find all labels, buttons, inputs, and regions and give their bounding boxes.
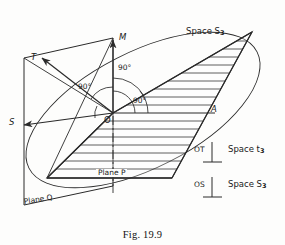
plane-p-label: Plane P [96, 169, 127, 177]
arc-angle-os [95, 106, 97, 118]
legend-bars [203, 142, 222, 197]
origin-label: O [104, 116, 111, 125]
legend-space-s3: Space S3 [228, 180, 267, 190]
axis-label-s: S [9, 118, 14, 127]
arc-angle-tm [91, 87, 113, 99]
legend-space-s3-text: Space S [228, 179, 262, 189]
space-top-text: Space S [186, 26, 220, 36]
angle-label-2: 90° [118, 64, 131, 72]
legend-space-t3-text: Space t [228, 144, 260, 154]
legend-space-s3-subscript: 3 [262, 182, 267, 190]
angle-label-3: 90° [133, 97, 146, 105]
point-label-a: A [211, 105, 217, 114]
arc-angle-ma [113, 78, 144, 96]
plane-q-outline [24, 38, 113, 205]
axis-os [24, 113, 113, 125]
legend-space-t3-subscript: 3 [260, 147, 265, 155]
angle-label-1: 90° [78, 83, 91, 91]
figure-container: M T S O A 90° 90° 90° Plane P Plane Q Sp… [0, 0, 285, 245]
axis-label-t: T [31, 53, 36, 62]
plane-p-region [40, 32, 258, 178]
space-top-label: Space S3 [186, 27, 225, 37]
figure-caption: Fig. 19.9 [0, 229, 285, 240]
legend-vector-os: OS [194, 181, 205, 189]
axis-group [24, 40, 113, 125]
space-top-subscript: 3 [220, 29, 225, 37]
legend-space-t3: Space t3 [228, 145, 264, 155]
legend-vector-ot: OT [194, 146, 205, 154]
diagram-canvas [0, 0, 285, 245]
axis-label-m: M [119, 33, 126, 42]
